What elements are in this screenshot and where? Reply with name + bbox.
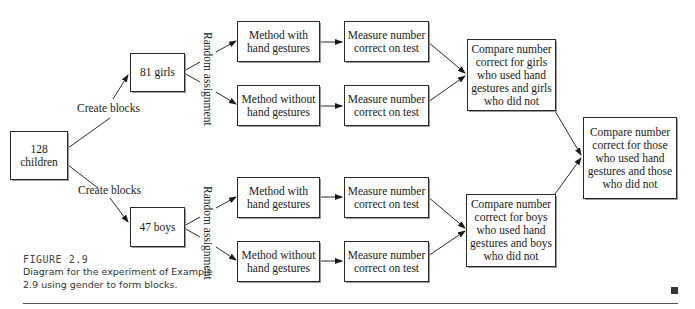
node-text-line: who did not <box>484 250 540 262</box>
node-text-line: Method without <box>242 93 317 105</box>
node-g-with: Method withhand gestures <box>238 22 322 64</box>
node-b-measure2: Measure numbercorrect on test <box>345 242 431 284</box>
figure-caption: FIGURE 2.9 Diagram for the experiment of… <box>23 254 213 291</box>
node-text-line: hand gestures <box>247 42 310 55</box>
label-random-assignment-top: Random assignment <box>201 32 214 126</box>
edge-girls-up <box>184 62 200 71</box>
node-text-line: who used hand <box>477 69 546 81</box>
node-text-line: 81 girls <box>140 66 175 79</box>
node-text-line: Method with <box>249 185 308 197</box>
node-text-line: correct on test <box>354 198 420 210</box>
node-text-line: hand gestures <box>247 198 310 211</box>
edge-bcompare-final <box>555 158 581 194</box>
node-g-without: Method withouthand gestures <box>238 86 322 128</box>
edge-to-b-with <box>216 197 236 208</box>
node-text-line: correct for boys <box>475 211 548 224</box>
node-text-line: Measure number <box>348 29 426 41</box>
edge-to-b-without <box>216 247 236 260</box>
node-text-line: hand gestures <box>247 262 310 275</box>
edge-boys-down <box>184 228 200 237</box>
node-text-line: Compare number <box>471 43 551 56</box>
bottom-rule <box>23 303 678 304</box>
node-boys: 47 boys <box>131 208 187 249</box>
node-text-line: 47 boys <box>139 221 176 234</box>
node-text-line: Measure number <box>348 185 426 197</box>
node-text-line: 128 <box>30 143 48 155</box>
node-b-measure1: Measure numbercorrect on test <box>345 178 431 220</box>
node-b-compare: Compare numbercorrect for boyswho used h… <box>467 195 558 269</box>
label-create-blocks-bottom: Create blocks <box>78 184 141 196</box>
edge-to-boys <box>110 198 128 222</box>
edge-bm1-compare <box>428 197 465 228</box>
node-text-line: correct on test <box>354 262 420 274</box>
node-root: 128children <box>11 132 70 182</box>
node-text-line: gestures and girls <box>471 82 552 95</box>
node-girls: 81 girls <box>131 54 187 94</box>
edge-gcompare-final <box>555 111 581 155</box>
node-text-line: gestures and those <box>588 165 672 178</box>
edge-gm2-compare <box>428 76 465 102</box>
node-text-line: Compare number <box>590 126 670 139</box>
node-text-line: children <box>20 156 58 168</box>
caption-text: Diagram for the experiment of Example 2.… <box>23 265 213 291</box>
label-create-blocks-top: Create blocks <box>77 102 140 114</box>
node-g-measure1: Measure numbercorrect on test <box>345 22 431 64</box>
nodes: 128children81 girls47 boysMethod withhan… <box>11 22 679 284</box>
node-text-line: Method with <box>249 29 308 41</box>
node-text-line: who used hand <box>596 152 665 164</box>
node-g-compare: Compare numbercorrect for girlswho used … <box>468 40 558 113</box>
node-final-compare: Compare numbercorrect for thosewho used … <box>584 118 679 201</box>
edge-to-g-with <box>216 41 236 52</box>
edge-to-g-without <box>216 92 236 104</box>
edge-to-girls <box>113 75 128 99</box>
node-b-with: Method withhand gestures <box>238 178 322 220</box>
node-text-line: who did not <box>603 178 659 190</box>
end-mark-square <box>671 287 678 294</box>
node-text-line: gestures and boys <box>470 237 552 250</box>
node-text-line: hand gestures <box>247 106 310 119</box>
edge-root-to-label-top <box>68 118 110 148</box>
edge-girls-down <box>184 73 200 82</box>
node-text-line: Method without <box>242 249 317 261</box>
node-text-line: correct on test <box>354 106 420 118</box>
edge-bm2-compare <box>428 231 465 256</box>
node-text-line: correct for those <box>592 139 667 151</box>
node-text-line: Compare number <box>471 198 551 211</box>
edge-gm1-compare <box>428 42 465 73</box>
node-b-without: Method withouthand gestures <box>238 242 322 284</box>
caption-title: FIGURE 2.9 <box>23 254 213 265</box>
node-g-measure2: Measure numbercorrect on test <box>345 86 431 128</box>
node-text-line: Measure number <box>348 93 426 105</box>
node-text-line: correct on test <box>354 42 420 54</box>
node-text-line: correct for girls <box>476 56 548 69</box>
node-text-line: Measure number <box>348 249 426 261</box>
edge-boys-up <box>184 217 200 226</box>
node-text-line: who used hand <box>477 224 546 236</box>
node-text-line: who did not <box>484 95 540 107</box>
